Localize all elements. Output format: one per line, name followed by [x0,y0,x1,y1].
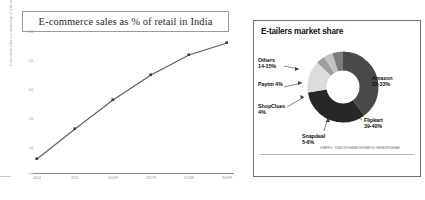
callout-shopclues: ShopClues 4% [258,103,285,116]
x-tick-label: 2017F [146,176,156,180]
callout-amazon-value: 32-33% [372,81,392,87]
series-markers [35,41,228,160]
x-tick-label: 2019F [222,176,232,180]
credit-divider [260,154,414,155]
data-point [187,53,190,56]
callout-others: Others 14-15% [258,57,276,70]
callout-paytm: Paytm 4% [258,81,283,87]
x-tick-label: 2014 [33,176,41,180]
callout-flipkart-value: 39-40% [364,123,383,129]
arrow-others [295,67,299,71]
x-tick-label: 2015 [71,176,79,180]
callout-flipkart-name: Flipkart [364,117,383,123]
data-point [35,157,38,160]
callout-snapdeal: Snapdeal 5-6% [302,133,325,146]
callout-amazon: Amazon 32-33% [372,75,392,88]
x-axis-line [33,173,234,174]
callout-flipkart: Flipkart 39-40% [364,117,383,130]
callout-snapdeal-name: Snapdeal [302,133,325,139]
callout-shopclues-name: ShopClues [258,103,285,109]
line-chart-panel: E-commerce sales as % of retail in India… [0,0,245,200]
x-tick-label: 2018F [184,176,194,180]
x-axis-tick-labels: 2014 2015 2016F 2017F 2018F 2019F [33,176,234,188]
data-point [225,41,228,44]
x-tick-label: 2016F [108,176,118,180]
data-point [111,98,114,101]
y-axis-title: E-commerce sales as a percentage of reta… [9,0,13,66]
data-point [73,127,76,130]
line-chart-title-box: E-commerce sales as % of retail in India [22,11,229,32]
callout-others-name: Others [258,57,275,63]
donut-chart-title: E-tailers market share [261,27,343,36]
donut-chart-credit: GRAPHIC: SYAM KRISHNAN RESEARCH: HEMA KR… [304,147,416,150]
callout-shopclues-value: 4% [258,109,285,115]
callout-paytm-name: Paytm 4% [258,81,283,87]
donut-chart-panel: E-tailers market share [253,20,421,177]
callout-others-value: 14-15% [258,63,276,69]
leader-paytm [284,83,302,87]
callout-snapdeal-value: 5-6% [302,139,325,145]
leader-others [284,66,299,69]
line-chart-title: E-commerce sales as % of retail in India [39,16,213,27]
page-artifact-mark [0,176,11,177]
line-chart-plot-area [33,33,233,173]
callout-amazon-name: Amazon [372,75,392,81]
line-series-svg [33,33,233,173]
data-point [149,73,152,76]
y-axis-tick-labels: 5.0 4.0 3.0 2.0 1.0 0.0 [20,30,33,178]
series-line [37,43,227,159]
